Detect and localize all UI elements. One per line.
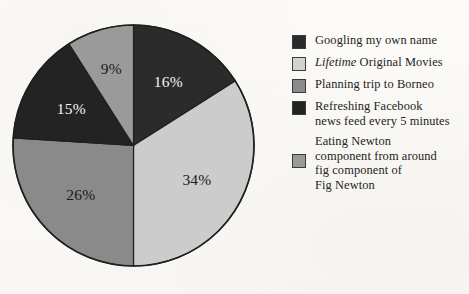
legend-label-line: Eating Newton xyxy=(315,134,437,149)
pie-slice-label: 26% xyxy=(66,186,95,203)
legend-item-label: Planning trip to Borneo xyxy=(315,77,434,92)
legend-item-label: Googling my own name xyxy=(315,33,437,48)
pie-slice-label: 16% xyxy=(154,73,183,90)
legend-label-line: Googling my own name xyxy=(315,33,437,48)
legend-label-line: news feed every 5 minutes xyxy=(315,114,450,129)
legend-color-swatch xyxy=(292,101,306,115)
legend-item-label: Refreshing Facebooknews feed every 5 min… xyxy=(315,99,450,128)
legend-label-line: Lifetime Original Movies xyxy=(315,55,443,70)
legend-label-line: Refreshing Facebook xyxy=(315,99,450,114)
legend-label-line: fig component of xyxy=(315,163,437,178)
legend-label-line: component from around xyxy=(315,149,437,164)
pie-chart: 16%34%26%15%9% xyxy=(12,24,255,267)
legend-color-swatch xyxy=(292,57,306,71)
legend-item[interactable]: Refreshing Facebooknews feed every 5 min… xyxy=(292,99,468,128)
legend-color-swatch xyxy=(292,79,306,93)
pie-chart-svg: 16%34%26%15%9% xyxy=(12,24,255,267)
pie-slice-label: 9% xyxy=(101,60,122,77)
legend-item[interactable]: Lifetime Original Movies xyxy=(292,55,468,71)
legend-color-swatch xyxy=(292,154,306,168)
legend-item[interactable]: Eating Newtoncomponent from aroundfig co… xyxy=(292,134,468,192)
legend-item[interactable]: Googling my own name xyxy=(292,33,468,49)
legend-label-line: Fig Newton xyxy=(315,178,437,193)
legend-label-line: Planning trip to Borneo xyxy=(315,77,434,92)
pie-slice-label: 15% xyxy=(57,100,86,117)
chart-legend: Googling my own nameLifetime Original Mo… xyxy=(292,33,468,200)
legend-item[interactable]: Planning trip to Borneo xyxy=(292,77,468,93)
legend-item-label: Lifetime Original Movies xyxy=(315,55,443,70)
legend-label-italic-part: Lifetime xyxy=(315,55,356,69)
pie-slice-group xyxy=(13,25,254,266)
legend-item-label: Eating Newtoncomponent from aroundfig co… xyxy=(315,134,437,192)
pie-slice-label: 34% xyxy=(182,171,211,188)
legend-color-swatch xyxy=(292,35,306,49)
